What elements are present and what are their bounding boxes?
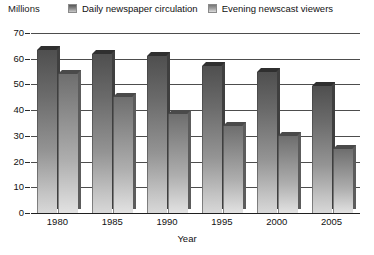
- x-axis-label-2005: 2005: [321, 216, 342, 228]
- x-axis-tick-labels: 198019851990199520002005: [31, 216, 360, 230]
- bar-front-face: [257, 72, 277, 213]
- bar-groups: [31, 33, 360, 213]
- bar-front-face: [202, 66, 222, 213]
- bar-2005-series-2: [333, 149, 352, 213]
- bar-2000-series-2: [278, 136, 297, 213]
- y-axis-label-0: 0: [0, 208, 24, 218]
- y-tick-10: [25, 187, 30, 188]
- bar-front-face: [223, 126, 243, 213]
- bar-front-face: [58, 74, 78, 213]
- y-axis-label-40: 40: [0, 105, 24, 115]
- legend-item-evening-newscast-viewers: Evening newscast viewers: [208, 3, 333, 14]
- bar-front-face: [333, 149, 353, 213]
- bar-front-face: [113, 97, 133, 213]
- bar-chart: Millions Daily newspaper circulation Eve…: [0, 0, 374, 255]
- y-axis-label-60: 60: [0, 54, 24, 64]
- x-axis-label-1995: 1995: [211, 216, 232, 228]
- y-axis-unit-label: Millions: [8, 3, 40, 14]
- bar-2000-series-1: [257, 72, 276, 213]
- bar-1995-series-2: [223, 126, 242, 213]
- y-tick-30: [25, 136, 30, 137]
- y-axis-label-10: 10: [0, 182, 24, 192]
- bar-1990-series-2: [168, 114, 187, 213]
- y-tick-20: [25, 162, 30, 163]
- bar-1985-series-1: [92, 54, 111, 213]
- legend-swatch-icon-series-2: [208, 4, 217, 13]
- x-axis-title: Year: [0, 233, 374, 245]
- bar-front-face: [168, 114, 188, 213]
- plot-area: [31, 33, 360, 213]
- bar-1980-series-2: [58, 74, 77, 213]
- chart-legend: Daily newspaper circulation Evening news…: [68, 3, 333, 14]
- y-axis-label-50: 50: [0, 79, 24, 89]
- bar-1985-series-2: [113, 97, 132, 213]
- bar-1995-series-1: [202, 66, 221, 213]
- y-tick-0: [25, 213, 30, 214]
- bar-2005-series-1: [312, 86, 331, 213]
- x-axis-label-1990: 1990: [157, 216, 178, 228]
- legend-label-series-2: Evening newscast viewers: [222, 3, 333, 14]
- bar-front-face: [278, 136, 298, 213]
- bar-front-face: [37, 50, 57, 213]
- legend-label-series-1: Daily newspaper circulation: [82, 3, 198, 14]
- x-axis-label-1985: 1985: [102, 216, 123, 228]
- bar-front-face: [147, 56, 167, 213]
- y-axis-label-30: 30: [0, 131, 24, 141]
- y-axis-label-20: 20: [0, 157, 24, 167]
- bar-front-face: [312, 86, 332, 213]
- legend-item-daily-newspaper-circulation: Daily newspaper circulation: [68, 3, 198, 14]
- y-tick-60: [25, 59, 30, 60]
- bar-1990-series-1: [147, 56, 166, 213]
- legend-swatch-icon-series-1: [68, 4, 77, 13]
- y-axis-label-70: 70: [0, 28, 24, 38]
- bar-front-face: [92, 54, 112, 213]
- x-axis-label-1980: 1980: [47, 216, 68, 228]
- gridline-0: [31, 213, 360, 214]
- y-tick-50: [25, 84, 30, 85]
- bar-1980-series-1: [37, 50, 56, 213]
- y-tick-40: [25, 110, 30, 111]
- x-axis-label-2000: 2000: [266, 216, 287, 228]
- y-tick-70: [25, 33, 30, 34]
